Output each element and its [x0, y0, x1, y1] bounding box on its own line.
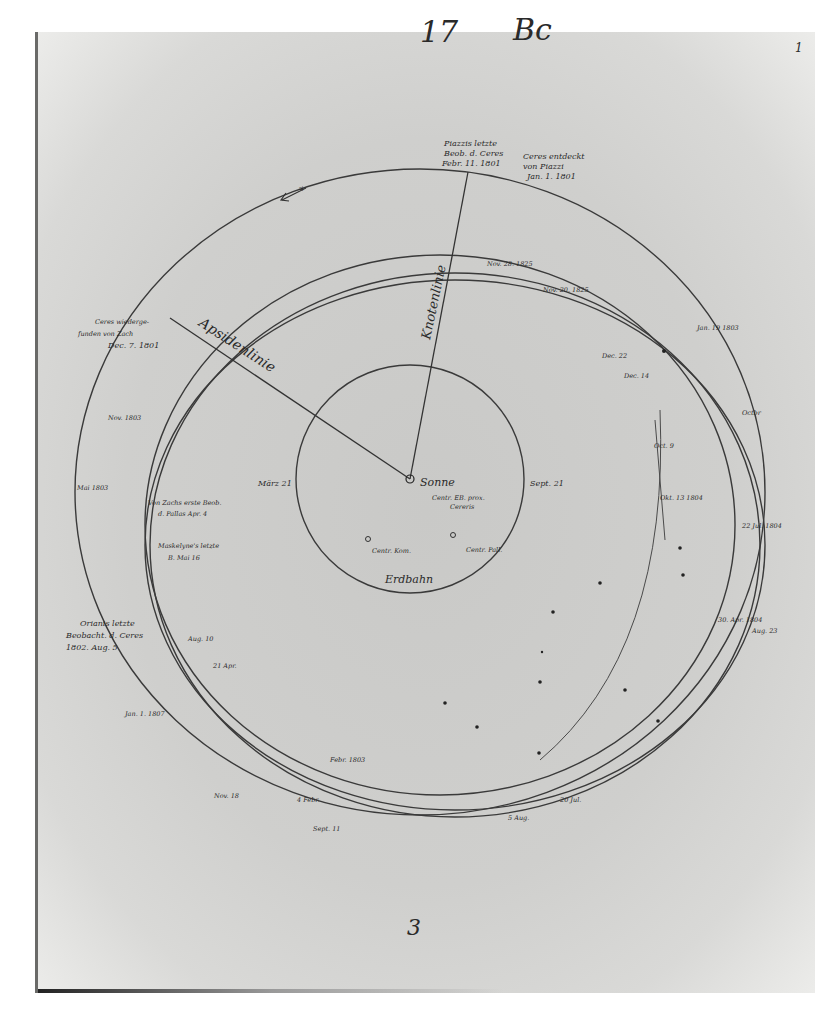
- svg-text:Maskelyne's letzte: Maskelyne's letzte: [157, 542, 219, 550]
- svg-text:Aug. 23: Aug. 23: [751, 627, 777, 635]
- svg-text:Dec. 14: Dec. 14: [623, 372, 649, 380]
- svg-text:Jan. 1. 1801: Jan. 1. 1801: [525, 172, 576, 181]
- center-pall-icon: [451, 533, 456, 538]
- apsidenlinie-label: Apsidenlinie: [195, 313, 279, 375]
- svg-text:Febr. 11. 1801: Febr. 11. 1801: [441, 159, 501, 168]
- svg-text:Von Zachs erste Beob.: Von Zachs erste Beob.: [148, 499, 221, 507]
- zach-pallas-note: Von Zachs erste Beob. d. Pallas Apr. 4: [148, 499, 221, 518]
- svg-text:Dec. 22: Dec. 22: [601, 352, 627, 360]
- svg-text:Nov. 20. 1825: Nov. 20. 1825: [542, 286, 589, 294]
- footer-number: 3: [407, 915, 421, 940]
- header-letters: Bc: [512, 12, 552, 47]
- svg-text:1802. Aug. 5: 1802. Aug. 5: [66, 643, 118, 652]
- svg-text:Orianis letzte: Orianis letzte: [80, 619, 135, 628]
- svg-text:Aug. 10: Aug. 10: [187, 635, 213, 643]
- maskelyne-note: Maskelyne's letzte B. Mai 16: [157, 542, 219, 562]
- svg-text:Jan. 1. 1807: Jan. 1. 1807: [123, 710, 165, 718]
- svg-text:21 Apr.: 21 Apr.: [212, 662, 237, 670]
- knotenlinie-line: [410, 172, 468, 479]
- corner-number: 1: [795, 41, 803, 55]
- center-pall-label: Centr. Pall.: [466, 546, 502, 554]
- svg-text:Oct. 9: Oct. 9: [654, 442, 674, 450]
- svg-text:Nov. 18: Nov. 18: [213, 792, 239, 800]
- ceres-discovered-note: Ceres entdeckt von Piazzi Jan. 1. 1801: [523, 152, 585, 181]
- svg-text:Jan. 19 1803: Jan. 19 1803: [695, 324, 739, 332]
- svg-text:B. Mai 16: B. Mai 16: [167, 554, 200, 562]
- maerz-label: März 21: [257, 479, 292, 488]
- svg-text:Nov. 1803: Nov. 1803: [107, 414, 141, 422]
- svg-text:20 Jul.: 20 Jul.: [559, 796, 581, 804]
- svg-text:funden von Zach: funden von Zach: [77, 330, 133, 338]
- svg-text:22 Jul. 1804: 22 Jul. 1804: [741, 522, 782, 530]
- svg-text:Piazzis letzte: Piazzis letzte: [443, 139, 497, 148]
- svg-text:von Piazzi: von Piazzi: [523, 162, 564, 171]
- svg-text:Beob. d. Ceres: Beob. d. Ceres: [443, 149, 503, 158]
- svg-text:Ceres wiederge-: Ceres wiederge-: [95, 318, 149, 326]
- center-note-1: Centr. EB. prox.: [432, 494, 485, 502]
- svg-text:Beobacht. d. Ceres: Beobacht. d. Ceres: [65, 631, 143, 640]
- inner-arc: [540, 410, 661, 760]
- svg-text:d. Pallas Apr. 4: d. Pallas Apr. 4: [158, 510, 207, 518]
- center-kom-label: Centr. Kom.: [372, 547, 411, 555]
- header-number: 17: [420, 14, 459, 49]
- earth-orbit-label: Erdbahn: [384, 573, 433, 586]
- svg-text:Ceres entdeckt: Ceres entdeckt: [523, 152, 585, 161]
- svg-text:Okt. 13 1804: Okt. 13 1804: [660, 494, 703, 502]
- sept-label: Sept. 21: [530, 479, 564, 488]
- sun-label: Sonne: [420, 476, 455, 489]
- direction-arrow-icon: ♃: [281, 185, 306, 201]
- svg-text:Febr. 1803: Febr. 1803: [329, 756, 365, 764]
- svg-text:Dec. 7. 1801: Dec. 7. 1801: [107, 341, 159, 350]
- svg-text:30. Apr. 1804: 30. Apr. 1804: [718, 616, 762, 624]
- svg-text:Sept. 11: Sept. 11: [313, 825, 340, 833]
- center-note-2: Cereris: [450, 503, 475, 511]
- apsidenlinie-line: [170, 318, 410, 479]
- piazzi-last-note: Piazzis letzte Beob. d. Ceres Febr. 11. …: [441, 139, 503, 168]
- orbit-c: [145, 280, 765, 810]
- svg-text:5 Aug.: 5 Aug.: [508, 814, 529, 822]
- svg-text:4 Febr.: 4 Febr.: [296, 796, 320, 804]
- svg-text:Octbr: Octbr: [742, 409, 762, 417]
- svg-text:Nov. 28. 1825: Nov. 28. 1825: [486, 260, 533, 268]
- orianis-note: Orianis letzte Beobacht. d. Ceres 1802. …: [65, 619, 143, 652]
- svg-text:♃: ♃: [298, 185, 304, 193]
- svg-text:Mai 1803: Mai 1803: [76, 484, 108, 492]
- ceres-refound-note: Ceres wiederge- funden von Zach Dec. 7. …: [77, 318, 159, 350]
- center-kom-icon: [366, 537, 371, 542]
- orbit-diagram: 17 Bc 1 Sonne Centr. EB. prox. Cereris C…: [0, 0, 827, 1025]
